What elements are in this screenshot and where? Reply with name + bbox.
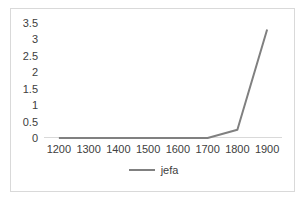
y-tick-label: 0.5 <box>23 116 38 127</box>
x-tick-label: 1300 <box>76 142 100 156</box>
x-tick-label: 1500 <box>136 142 160 156</box>
legend-label-jefa: jefa <box>161 164 179 176</box>
chart-legend: jefa <box>11 164 296 176</box>
x-tick-label: 1200 <box>47 142 71 156</box>
y-tick-label: 1.5 <box>23 83 38 94</box>
series-line-jefa <box>59 30 267 138</box>
x-tick-label: 1900 <box>255 142 279 156</box>
y-tick-label: 2 <box>32 67 38 78</box>
plot-area <box>44 23 282 138</box>
y-tick-label: 2.5 <box>23 50 38 61</box>
x-tick-label: 1600 <box>166 142 190 156</box>
y-tick-label: 3 <box>32 34 38 45</box>
x-tick-label: 1700 <box>195 142 219 156</box>
series-layer <box>44 23 282 138</box>
y-tick-label: 1 <box>32 100 38 111</box>
legend-swatch-jefa <box>129 169 155 171</box>
x-tick-label: 1400 <box>106 142 130 156</box>
x-tick-label: 1800 <box>225 142 249 156</box>
x-axis: 12001300140015001600170018001900 <box>44 142 282 158</box>
y-tick-label: 3.5 <box>23 18 38 29</box>
y-tick-label: 0 <box>32 133 38 144</box>
chart-container: 00.511.522.533.5 12001300140015001600170… <box>10 8 295 192</box>
